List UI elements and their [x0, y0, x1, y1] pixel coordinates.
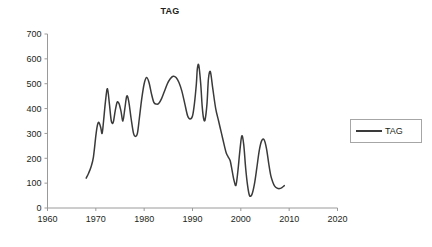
- x-tick-label: 2010: [279, 214, 299, 224]
- y-axis: 0100200300400500600700: [26, 29, 47, 213]
- legend-label-tag: TAG: [385, 127, 403, 136]
- x-tick-label: 1970: [86, 214, 106, 224]
- series-line-tag: [86, 64, 284, 196]
- y-tick-label: 400: [26, 104, 41, 114]
- y-tick-label: 700: [26, 29, 41, 39]
- y-tick-label: 300: [26, 129, 41, 139]
- x-tick-label: 1990: [182, 214, 202, 224]
- x-tick-label: 1980: [134, 214, 154, 224]
- y-tick-label: 0: [36, 203, 41, 213]
- x-tick-label: 1960: [37, 214, 57, 224]
- y-tick-label: 600: [26, 54, 41, 64]
- chart-legend: TAG: [350, 119, 422, 143]
- x-tick-label: 2020: [327, 214, 347, 224]
- x-tick-label: 2000: [231, 214, 251, 224]
- y-tick-label: 100: [26, 178, 41, 188]
- legend-line-swatch: [356, 130, 382, 132]
- x-axis: 1960197019801990200020102020: [37, 208, 347, 224]
- y-tick-label: 500: [26, 79, 41, 89]
- data-series-group: [86, 64, 284, 196]
- chart-container: TAG 0100200300400500600700 1960197019801…: [0, 0, 432, 247]
- y-tick-label: 200: [26, 154, 41, 164]
